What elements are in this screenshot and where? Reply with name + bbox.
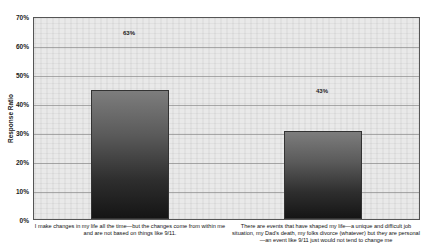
- bar-1: [91, 90, 169, 219]
- y-tick-0: 0%: [0, 217, 29, 224]
- plot-area: [33, 17, 420, 220]
- y-tick-70: 70%: [0, 14, 29, 21]
- x-category-label-2: There are events that have shaped my lif…: [230, 223, 422, 244]
- y-tick-20: 20%: [0, 159, 29, 166]
- y-tick-60: 60%: [0, 43, 29, 50]
- x-category-label-1: I make changes in my life all the time—b…: [34, 223, 226, 237]
- y-tick-40: 40%: [0, 101, 29, 108]
- y-tick-50: 50%: [0, 72, 29, 79]
- bar-2: [284, 131, 362, 219]
- gridline-60: [34, 47, 419, 48]
- y-tick-30: 30%: [0, 130, 29, 137]
- y-axis-title: Response Ratio: [7, 89, 14, 149]
- bar-1-value-label: 63%: [109, 30, 149, 36]
- gridline-50: [34, 76, 419, 77]
- bar-2-value-label: 43%: [302, 88, 342, 94]
- y-tick-10: 10%: [0, 188, 29, 195]
